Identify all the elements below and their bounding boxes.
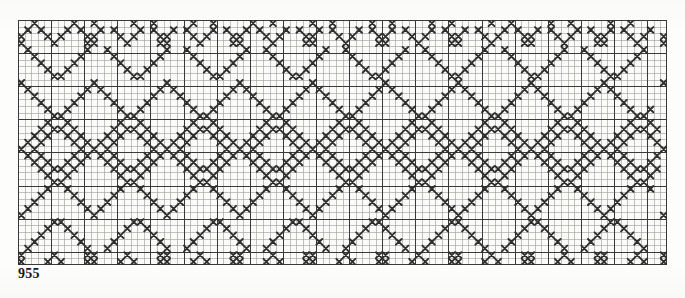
- cross-stitch-grid-canvas: [18, 20, 667, 265]
- pattern-chart-plate: [18, 20, 667, 265]
- chart-page: 955: [0, 0, 685, 298]
- page-number-label: 955: [18, 266, 40, 282]
